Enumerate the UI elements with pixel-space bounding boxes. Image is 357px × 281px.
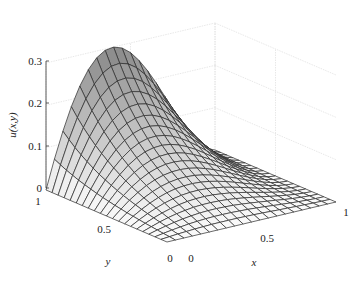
z-tick-0.2: 0.2 <box>28 97 42 109</box>
z-tick-0.1: 0.1 <box>28 140 42 152</box>
surface-plot: 0 0.1 0.2 0.3 u(x,y) 1 0.5 0 y 0 0.5 1 x <box>0 0 357 281</box>
y-tick-0: 0 <box>167 252 173 264</box>
y-tick-1: 1 <box>35 195 41 207</box>
x-tick-0: 0 <box>188 252 194 264</box>
x-tick-1: 1 <box>343 206 349 218</box>
z-axis-label: u(x,y) <box>6 112 19 138</box>
z-ticks <box>46 61 49 188</box>
z-tick-0.3: 0.3 <box>28 55 42 67</box>
x-axis-label: x <box>251 256 257 268</box>
y-tick-0.5: 0.5 <box>97 223 111 235</box>
z-tick-0: 0 <box>37 182 43 194</box>
x-tick-0.5: 0.5 <box>260 232 274 244</box>
surface-mesh <box>46 47 336 242</box>
y-axis-label: y <box>105 255 111 267</box>
